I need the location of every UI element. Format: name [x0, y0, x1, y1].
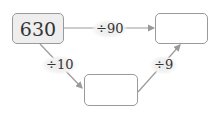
operation-top-label: ÷90 [92, 20, 127, 38]
answer-box-bottom[interactable] [84, 74, 138, 106]
operation-right-label: ÷9 [150, 56, 177, 74]
operation-left-label: ÷10 [42, 56, 77, 74]
start-number-box: 630 [12, 13, 64, 44]
answer-box-right[interactable] [155, 13, 208, 44]
